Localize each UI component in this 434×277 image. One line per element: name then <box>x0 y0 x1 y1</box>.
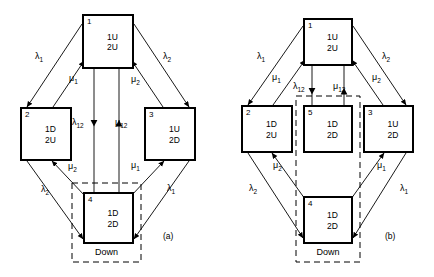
rate-subscript: 12 <box>120 122 127 129</box>
state-component-status: 1D2U <box>22 124 70 145</box>
state-component-1: 1U <box>314 32 351 43</box>
state-box-b-2: 21D2U <box>241 105 293 153</box>
state-component-1: 1D <box>94 208 132 219</box>
state-box-b-1: 11U2U <box>303 18 353 66</box>
state-component-1: 1U <box>155 124 194 135</box>
state-box-b-4: 41D2D <box>303 196 353 244</box>
rate-label-b-lambda-1: λ1 <box>400 184 408 195</box>
state-component-2: 2D <box>314 220 351 231</box>
rate-label-b-mu-12: μ12 <box>333 82 345 93</box>
state-component-1: 1D <box>314 210 351 221</box>
rate-label-a-lambda-1: λ1 <box>167 184 175 195</box>
rate-subscript: 2 <box>73 166 77 173</box>
rate-subscript: 1 <box>40 56 44 63</box>
edge-b-1-to-5 <box>309 66 316 105</box>
state-id-label: 2 <box>246 108 250 117</box>
rate-subscript: 12 <box>338 86 345 93</box>
state-id-label: 3 <box>149 110 153 119</box>
rate-subscript: 1 <box>262 56 266 63</box>
state-component-status: 1D2D <box>85 208 132 229</box>
down-group-label-a: Down <box>72 243 141 262</box>
state-component-1: 1D <box>31 124 70 135</box>
edge-a-4-to-1 <box>116 69 123 192</box>
rate-subscript: 12 <box>298 86 305 93</box>
state-id-label: 5 <box>308 108 312 117</box>
rate-subscript: 1 <box>136 165 140 172</box>
state-component-1: 1D <box>252 119 291 130</box>
state-component-status: 1U2U <box>84 31 132 52</box>
state-component-2: 2D <box>314 129 351 140</box>
state-id-label: 4 <box>88 195 92 204</box>
rate-subscript: 2 <box>387 56 391 63</box>
state-component-2: 2U <box>93 42 132 53</box>
rate-label-a-lambda-2: λ2 <box>41 185 49 196</box>
rate-subscript: 2 <box>278 165 282 172</box>
down-group-label-b: Down <box>296 243 360 262</box>
rate-label-a-mu-1: μ1 <box>131 161 140 172</box>
rate-subscript: 1 <box>172 188 176 195</box>
rate-subscript: 1 <box>74 78 78 85</box>
state-box-a-3: 31U2D <box>144 107 196 161</box>
state-component-2: 2D <box>94 218 132 229</box>
state-id-label: 3 <box>368 108 372 117</box>
rate-subscript: 2 <box>168 56 172 63</box>
rate-label-a-mu-12: μ12 <box>115 118 127 129</box>
rate-label-b-mu-1: μ1 <box>377 161 386 172</box>
state-box-b-5: 51D2D <box>303 105 353 153</box>
state-id-label: 4 <box>308 199 312 208</box>
edge-a-3-to-4 <box>134 161 189 239</box>
rate-subscript: 2 <box>136 79 140 86</box>
state-component-status: 1U2U <box>305 32 351 53</box>
rate-subscript: 2 <box>46 189 50 196</box>
edge-b-1-to-3 <box>353 26 406 105</box>
rate-label-a-lambda-2: λ2 <box>163 52 171 63</box>
state-component-status: 1D2D <box>305 210 351 231</box>
rate-label-b-lambda-2: λ2 <box>249 184 257 195</box>
rate-label-b-mu-1: μ1 <box>272 73 281 84</box>
rate-label-a-lambda-12: λ12 <box>72 118 84 129</box>
figure-markov-state-diagrams: 11U2U21D2U31U2D41D2D11U2U21D2U51D2D31U2D… <box>0 0 434 277</box>
state-component-status: 1D2U <box>243 119 291 140</box>
state-box-b-3: 31U2D <box>363 105 414 153</box>
rate-label-b-mu-2: μ2 <box>372 73 381 84</box>
panel-caption-b: (b) <box>385 232 395 241</box>
state-component-status: 1D2D <box>305 119 351 140</box>
state-component-2: 2U <box>252 129 291 140</box>
state-component-2: 2U <box>31 134 70 145</box>
rate-subscript: 12 <box>77 122 84 129</box>
rate-label-a-lambda-1: λ1 <box>35 52 43 63</box>
rate-label-a-mu-1: μ1 <box>69 74 78 85</box>
state-component-2: 2D <box>374 129 412 140</box>
rate-subscript: 1 <box>382 165 386 172</box>
state-component-2: 2U <box>314 42 351 53</box>
state-component-2: 2D <box>155 134 194 145</box>
state-component-status: 1U2D <box>146 124 194 145</box>
rate-label-a-mu-2: μ2 <box>131 75 140 86</box>
state-box-a-4: 41D2D <box>83 192 134 244</box>
rate-subscript: 1 <box>277 77 281 84</box>
state-component-1: 1U <box>93 31 132 42</box>
rate-label-b-mu-2: μ2 <box>273 161 282 172</box>
state-box-a-1: 11U2U <box>82 14 134 69</box>
rate-subscript: 1 <box>405 188 409 195</box>
rate-label-b-lambda-12: λ12 <box>293 82 305 93</box>
state-box-a-2: 21D2U <box>20 107 72 161</box>
edge-a-1-to-4 <box>91 69 98 192</box>
state-component-1: 1U <box>374 119 412 130</box>
state-id-label: 2 <box>25 110 29 119</box>
state-id-label: 1 <box>308 21 312 30</box>
panel-caption-a: (a) <box>163 232 173 241</box>
rate-label-b-lambda-2: λ2 <box>382 52 390 63</box>
state-component-1: 1D <box>314 119 351 130</box>
rate-subscript: 2 <box>254 188 258 195</box>
rate-subscript: 2 <box>377 77 381 84</box>
state-component-status: 1U2D <box>365 119 412 140</box>
rate-label-b-lambda-1: λ1 <box>257 52 265 63</box>
edge-a-1-to-2 <box>27 24 82 107</box>
state-id-label: 1 <box>87 17 91 26</box>
rate-label-a-mu-2: μ2 <box>68 162 77 173</box>
edge-a-1-to-3 <box>134 24 189 107</box>
